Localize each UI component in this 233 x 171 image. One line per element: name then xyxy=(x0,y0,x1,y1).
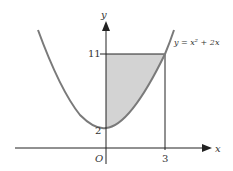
curve-equation-label: y = x² + 2x xyxy=(173,38,220,47)
tick-x-3: 3 xyxy=(162,153,168,164)
y-axis-arrow-icon xyxy=(102,21,110,31)
shaded-region xyxy=(106,54,165,128)
tick-y-11: 11 xyxy=(88,48,101,59)
x-axis-label: x xyxy=(215,143,221,154)
tick-y-2: 2 xyxy=(95,125,101,136)
x-axis-arrow-icon xyxy=(202,144,212,152)
graph: y x O 3 11 2 y = x² + 2x xyxy=(0,0,233,171)
origin-label: O xyxy=(95,153,103,164)
y-axis-label: y xyxy=(100,9,107,20)
